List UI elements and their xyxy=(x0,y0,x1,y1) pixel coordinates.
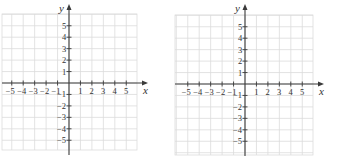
x-tick-label: −3 xyxy=(205,87,214,97)
grid-border xyxy=(175,15,313,155)
x-axis-label: x xyxy=(318,85,324,97)
coordinate-planes: xy−5−4−3−2−11234554321−1−2−3−4−5xy−5−4−3… xyxy=(0,0,339,158)
y-tick-label: −1 xyxy=(233,90,242,100)
x-tick-label: 1 xyxy=(78,86,82,96)
y-tick-label: −1 xyxy=(57,89,66,99)
x-tick-label: 5 xyxy=(124,86,128,96)
y-tick-label: 1 xyxy=(238,68,242,78)
y-tick-label: 3 xyxy=(62,44,66,54)
x-tick-label: −4 xyxy=(193,87,203,97)
y-tick-label: −4 xyxy=(57,124,67,134)
x-tick-label: −5 xyxy=(182,87,191,97)
x-tick-label: −5 xyxy=(6,86,15,96)
x-tick-label: 3 xyxy=(101,86,105,96)
x-tick-label: −2 xyxy=(216,87,225,97)
y-tick-label: 5 xyxy=(62,21,66,31)
y-tick-label: −5 xyxy=(57,135,66,145)
grid xyxy=(175,15,313,155)
x-tick-label: −3 xyxy=(29,86,38,96)
y-tick-label: −4 xyxy=(233,125,243,135)
graph-right: xy−5−4−3−2−11234554321−1−2−3−4−5 xyxy=(175,2,324,156)
y-axis-label: y xyxy=(234,2,240,14)
x-tick-label: 5 xyxy=(300,87,304,97)
x-tick-label: −4 xyxy=(17,86,27,96)
y-tick-label: −2 xyxy=(233,102,242,112)
y-tick-label: 5 xyxy=(238,22,242,32)
x-tick-label: 2 xyxy=(90,86,94,96)
y-tick-label: −5 xyxy=(233,136,242,146)
y-tick-label: −3 xyxy=(233,113,242,123)
y-tick-label: 1 xyxy=(62,67,66,77)
y-tick-label: 2 xyxy=(62,55,66,65)
y-tick-label: −2 xyxy=(57,101,66,111)
y-tick-label: −3 xyxy=(57,112,66,122)
x-tick-label: 4 xyxy=(289,87,294,97)
graph-left: xy−5−4−3−2−11234554321−1−2−3−4−5 xyxy=(2,2,148,155)
y-axis-arrow-icon xyxy=(243,4,248,10)
x-tick-label: 2 xyxy=(266,87,270,97)
x-tick-label: −2 xyxy=(40,86,49,96)
y-axis-label: y xyxy=(58,2,64,14)
x-axis-label: x xyxy=(142,84,148,96)
x-tick-label: 3 xyxy=(277,87,281,97)
x-tick-label: 1 xyxy=(254,87,258,97)
y-axis-arrow-icon xyxy=(67,4,72,10)
y-tick-label: 2 xyxy=(238,56,242,66)
y-tick-label: 3 xyxy=(238,45,242,55)
x-tick-label: 4 xyxy=(113,86,118,96)
